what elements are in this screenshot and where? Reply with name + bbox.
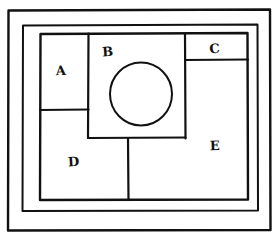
region-label-e: E [210,138,221,153]
region-label-d: D [68,154,80,170]
region-label-a: A [54,63,67,79]
divider-c-e [185,60,248,61]
diagram-background [0,0,280,240]
divider-a-b [88,34,89,139]
divider-b-bottom [88,138,186,139]
region-label-c: C [209,41,221,57]
divider-a-d [40,110,89,111]
region-label-b: B [102,44,114,60]
diagram-canvas: A B C D E [0,0,280,240]
room-layout-diagram: A B C D E [0,0,280,240]
divider-d-lower [128,138,129,200]
divider-b-ce [185,34,186,139]
